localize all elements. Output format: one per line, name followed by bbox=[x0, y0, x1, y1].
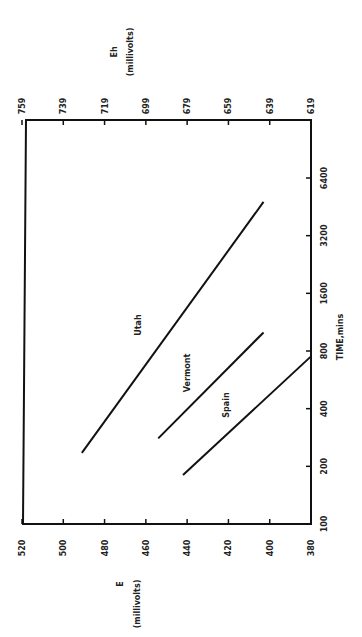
time-tick-label: 6400 bbox=[320, 166, 329, 189]
e-tick-label: 380 bbox=[307, 539, 316, 556]
e-tick-label: 440 bbox=[183, 539, 192, 556]
series-label: Vermont bbox=[183, 354, 192, 393]
e-tick-label: 500 bbox=[59, 539, 68, 556]
time-tick-label: 1600 bbox=[320, 282, 329, 305]
eh-tick-label: 759 bbox=[18, 97, 27, 114]
e-tick-label: 480 bbox=[101, 539, 110, 556]
eh-tick-label: 619 bbox=[307, 97, 316, 114]
series-label: Spain bbox=[222, 392, 231, 418]
eh-tick-label: 639 bbox=[266, 97, 275, 114]
e-axis-unit: (millivolts) bbox=[133, 580, 142, 629]
series-line-utah bbox=[82, 202, 264, 453]
e-tick-label: 520 bbox=[18, 539, 27, 556]
eh-tick-label: 659 bbox=[224, 97, 233, 114]
time-tick-label: 200 bbox=[320, 458, 329, 475]
series-label: Utah bbox=[134, 314, 143, 336]
eh-tick-label: 679 bbox=[183, 97, 192, 114]
chart: 5205004804604404204003807597397196996796… bbox=[0, 0, 362, 637]
data-lines bbox=[82, 202, 311, 475]
time-tick-label: 3200 bbox=[320, 224, 329, 247]
time-tick-label: 100 bbox=[320, 515, 329, 532]
eh-axis-title: Eh bbox=[110, 46, 119, 57]
e-tick-label: 460 bbox=[142, 539, 151, 556]
time-axis-title: TIME,mins bbox=[336, 314, 345, 361]
eh-tick-label: 739 bbox=[59, 97, 68, 114]
series-line-vermont bbox=[158, 332, 263, 438]
axis-ticks bbox=[22, 120, 311, 524]
eh-tick-label: 719 bbox=[101, 97, 110, 114]
e-tick-label: 420 bbox=[224, 539, 233, 556]
eh-tick-label: 699 bbox=[142, 97, 151, 114]
e-axis-title: E bbox=[116, 581, 125, 586]
time-tick-label: 400 bbox=[320, 400, 329, 417]
plot-frame bbox=[23, 120, 311, 524]
eh-axis-unit: (millivolts) bbox=[126, 28, 135, 77]
series-line-spain bbox=[183, 356, 311, 475]
time-tick-label: 800 bbox=[320, 342, 329, 359]
e-tick-label: 400 bbox=[266, 539, 275, 556]
